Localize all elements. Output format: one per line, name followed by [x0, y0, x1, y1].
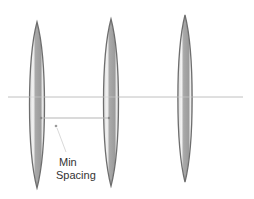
annotation-label-line2: Spacing — [56, 169, 96, 181]
min-spacing-dimension — [40, 117, 110, 119]
annotation-leader — [55, 125, 66, 152]
lens-2 — [104, 19, 119, 186]
lens-spacing-diagram: Min Spacing — [0, 0, 254, 199]
annotation-label-line1: Min — [59, 156, 77, 168]
lens-3 — [178, 15, 192, 182]
lens-1 — [30, 22, 45, 188]
